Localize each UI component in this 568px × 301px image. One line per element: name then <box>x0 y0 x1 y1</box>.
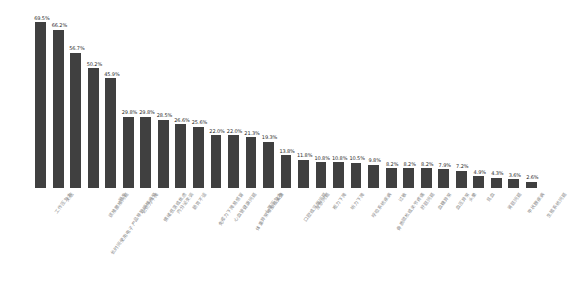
bar-value-label: 4.3% <box>491 171 503 176</box>
bar[interactable] <box>526 182 537 188</box>
bar-value-label: 66.2% <box>52 23 67 28</box>
bar-group[interactable] <box>88 68 99 188</box>
bar-group[interactable] <box>193 127 204 188</box>
bar-value-label: 4.9% <box>474 170 486 175</box>
bar-group[interactable] <box>123 117 134 188</box>
bar-group[interactable] <box>386 168 397 188</box>
bar-group[interactable] <box>35 22 46 188</box>
bar-group[interactable] <box>263 142 274 188</box>
bar[interactable] <box>158 120 169 188</box>
bar-group[interactable] <box>403 168 414 188</box>
bar[interactable] <box>491 178 502 188</box>
bar[interactable] <box>211 135 222 188</box>
bar[interactable] <box>386 168 397 188</box>
category-label: 头痛 <box>276 192 285 203</box>
bar[interactable] <box>473 176 484 188</box>
bar[interactable] <box>246 137 257 188</box>
bar-group[interactable] <box>105 78 116 188</box>
bar[interactable] <box>193 127 204 188</box>
bar-value-label: 19.3% <box>262 135 277 140</box>
bar-value-label: 26.6% <box>174 118 189 123</box>
category-label: 甲状腺疾病 <box>527 192 545 215</box>
bar-group[interactable] <box>246 137 257 188</box>
bar-value-label: 28.5% <box>157 113 172 118</box>
bar-value-label: 7.9% <box>439 163 451 168</box>
bar-group[interactable] <box>351 163 362 188</box>
bar[interactable] <box>368 165 379 188</box>
category-label: 过敏 <box>398 192 407 203</box>
bar-group[interactable] <box>158 120 169 188</box>
bar-group[interactable] <box>53 30 64 188</box>
bar-value-label: 56.7% <box>69 46 84 51</box>
bar-group[interactable] <box>228 135 239 188</box>
bar-value-label: 50.2% <box>87 62 102 67</box>
bar-value-label: 45.9% <box>104 72 119 77</box>
bar-group[interactable] <box>281 155 292 188</box>
bar[interactable] <box>281 155 292 188</box>
category-label: 肠胃不适 <box>192 192 207 211</box>
bar-group[interactable] <box>368 165 379 188</box>
bar-value-label: 22.0% <box>227 129 242 134</box>
bar-value-label: 13.8% <box>279 149 294 154</box>
bar-group[interactable] <box>140 117 151 188</box>
bar-value-label: 10.5% <box>349 156 364 161</box>
bar-value-label: 10.8% <box>332 156 347 161</box>
bar-group[interactable] <box>316 162 327 188</box>
bar[interactable] <box>70 53 81 188</box>
bar-value-label: 8.2% <box>421 162 433 167</box>
bar[interactable] <box>140 117 151 188</box>
category-label: 血糖异常 <box>438 192 453 211</box>
bar-value-label: 3.6% <box>509 173 521 178</box>
bar[interactable] <box>35 22 46 188</box>
category-label: 血压异常 <box>455 192 470 211</box>
bar-group[interactable] <box>175 124 186 188</box>
bar[interactable] <box>53 30 64 188</box>
bar-value-label: 7.2% <box>456 164 468 169</box>
bar-group[interactable] <box>491 178 502 188</box>
bar-value-label: 21.3% <box>244 131 259 136</box>
bar-group[interactable] <box>70 53 81 188</box>
bar-value-label: 29.8% <box>122 110 137 115</box>
bar[interactable] <box>105 78 116 188</box>
bar-value-label: 2.6% <box>526 175 538 180</box>
bar[interactable] <box>228 135 239 188</box>
bar-value-label: 9.8% <box>369 158 381 163</box>
bar-value-label: 8.2% <box>404 162 416 167</box>
bar[interactable] <box>438 169 449 188</box>
bar[interactable] <box>88 68 99 188</box>
bar-group[interactable] <box>508 179 519 188</box>
bar-group[interactable] <box>421 168 432 188</box>
category-label: 呼吸系统疾病 <box>372 192 393 219</box>
bar[interactable] <box>421 168 432 188</box>
category-label: 视力下降 <box>333 192 348 211</box>
bar-value-label: 11.8% <box>297 153 312 158</box>
category-label: 肾脏问题 <box>508 192 523 211</box>
bar[interactable] <box>456 171 467 188</box>
bar-group[interactable] <box>473 176 484 188</box>
bar-group[interactable] <box>211 135 222 188</box>
bar[interactable] <box>333 162 344 188</box>
bar-value-label: 69.5% <box>34 16 49 21</box>
category-label: 听力下降 <box>350 192 365 211</box>
bar[interactable] <box>298 160 309 188</box>
bar-value-label: 29.8% <box>139 110 154 115</box>
bar[interactable] <box>263 142 274 188</box>
bar[interactable] <box>175 124 186 188</box>
bar[interactable] <box>508 179 519 188</box>
category-label: 失眠 <box>66 192 75 203</box>
bar-value-label: 25.6% <box>192 120 207 125</box>
bar-group[interactable] <box>438 169 449 188</box>
bar-value-label: 10.8% <box>314 156 329 161</box>
bar-value-label: 8.2% <box>386 162 398 167</box>
bar-group[interactable] <box>298 160 309 188</box>
category-label: 贫血 <box>486 192 495 203</box>
bar-group[interactable] <box>526 182 537 188</box>
bar-group[interactable] <box>456 171 467 188</box>
bar[interactable] <box>123 117 134 188</box>
bar[interactable] <box>403 168 414 188</box>
bar[interactable] <box>351 163 362 188</box>
bar[interactable] <box>316 162 327 188</box>
bar-group[interactable] <box>333 162 344 188</box>
